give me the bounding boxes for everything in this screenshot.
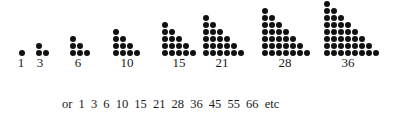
dot [324,8,330,14]
dot [70,36,76,42]
dot [262,36,268,42]
dot [217,29,223,35]
dot [113,29,119,35]
dot [331,36,337,42]
dot [297,50,303,56]
dot [238,50,244,56]
dot [262,29,268,35]
dot [345,29,351,35]
dot [169,43,175,49]
dot [324,1,330,7]
dot [262,22,268,28]
dot [162,29,168,35]
triangle-label: 15 [173,56,186,69]
dot [331,15,337,21]
dot [262,15,268,21]
dot [359,36,365,42]
triangle-label: 10 [121,56,134,69]
dot [366,43,372,49]
dot [331,22,337,28]
dot [120,43,126,49]
dot [352,36,358,42]
dot [203,29,209,35]
dot [352,29,358,35]
dot [162,50,168,56]
dot [231,50,237,56]
dot [269,15,275,21]
dot [224,36,230,42]
dot [269,43,275,49]
dot [338,36,344,42]
dot [210,22,216,28]
dot [162,22,168,28]
dot [345,43,351,49]
dot [324,22,330,28]
dot [113,36,119,42]
dot [331,50,337,56]
dot [283,29,289,35]
dot [169,36,175,42]
dot [210,36,216,42]
dot [269,29,275,35]
dot [359,43,365,49]
dot [324,50,330,56]
dot [262,8,268,14]
dot [373,50,379,56]
dot [324,36,330,42]
dot [203,22,209,28]
dot [70,43,76,49]
dot [162,36,168,42]
dot [338,43,344,49]
dot [203,15,209,21]
dot [304,50,310,56]
triangle-label: 1 [18,56,25,69]
triangle-label: 28 [279,56,292,69]
triangle-label: 21 [216,56,229,69]
dot [269,36,275,42]
dot [190,50,196,56]
dot [276,22,282,28]
dot [262,43,268,49]
dot [324,43,330,49]
dot [366,50,372,56]
dot [176,43,182,49]
dot [338,15,344,21]
dot [338,22,344,28]
dot [331,43,337,49]
dot [183,43,189,49]
dot [210,43,216,49]
dot [345,22,351,28]
dot [120,36,126,42]
dot [84,50,90,56]
dot [203,43,209,49]
dot [269,50,275,56]
dot [331,8,337,14]
dot [283,43,289,49]
dot [224,43,230,49]
dot [324,29,330,35]
dot [113,43,119,49]
dot [297,43,303,49]
dot [127,43,133,49]
triangle-label: 36 [342,56,355,69]
dot [203,50,209,56]
dot [324,15,330,21]
dot [290,43,296,49]
dot [77,43,83,49]
dot [359,50,365,56]
dot [276,29,282,35]
dot [269,22,275,28]
dot [162,43,168,49]
sequence-caption: or 1 3 6 10 15 21 28 36 45 55 66 etc [62,97,279,112]
dot [43,50,49,56]
dot [276,36,282,42]
dot [231,43,237,49]
dot [290,36,296,42]
dot [134,50,140,56]
dot [217,43,223,49]
dot [283,36,289,42]
triangle-label: 6 [75,56,82,69]
dot [345,36,351,42]
dot [217,36,223,42]
dot [262,50,268,56]
